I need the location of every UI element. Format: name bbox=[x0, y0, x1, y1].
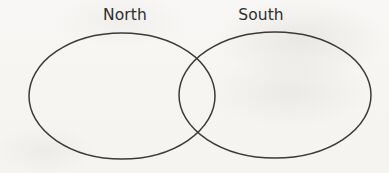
set-ellipse-north[interactable] bbox=[29, 33, 215, 159]
venn-diagram-svg bbox=[0, 0, 389, 173]
venn-diagram-canvas: North South bbox=[0, 0, 389, 173]
set-label-north: North bbox=[103, 8, 147, 24]
set-label-south: South bbox=[238, 8, 284, 24]
set-ellipse-south[interactable] bbox=[179, 32, 371, 158]
